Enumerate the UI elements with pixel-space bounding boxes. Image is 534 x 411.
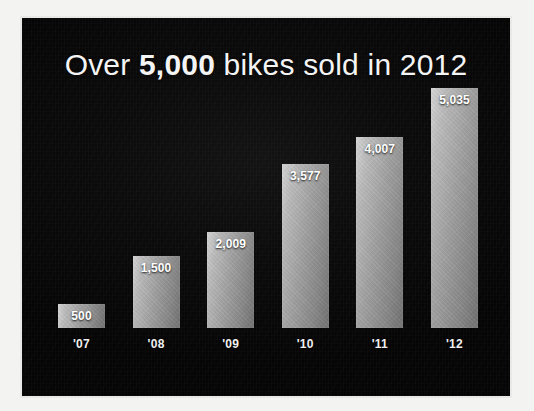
x-axis-label-08: '08: [133, 337, 180, 351]
x-axis-label-12: '12: [431, 337, 478, 351]
bar-value-12: 5,035: [431, 93, 478, 107]
bar-chart-plot-area: 500 '07 1,500 '08 2,009 ': [58, 88, 478, 380]
bar-slot-12: 5,035 '12: [431, 88, 478, 328]
presentation-slide: Over 5,000 bikes sold in 2012 500 '07 1,…: [22, 18, 510, 396]
title-emphasis: 5,000: [139, 48, 215, 81]
title-prefix: Over: [65, 48, 139, 81]
x-axis-label-11: '11: [356, 337, 403, 351]
bar-12[interactable]: 5,035: [431, 88, 478, 328]
bar-series: 500 '07 1,500 '08 2,009 ': [58, 88, 478, 328]
bar-slot-08: 1,500 '08: [133, 88, 180, 328]
bar-value-07: 500: [58, 309, 105, 323]
bar-slot-10: 3,577 '10: [282, 88, 329, 328]
x-axis-label-10: '10: [282, 337, 329, 351]
bar-10[interactable]: 3,577: [282, 164, 329, 328]
photo-canvas: Over 5,000 bikes sold in 2012 500 '07 1,…: [0, 0, 534, 411]
bar-slot-11: 4,007 '11: [356, 88, 403, 328]
bar-value-11: 4,007: [356, 142, 403, 156]
bar-value-09: 2,009: [207, 237, 254, 251]
bar-09[interactable]: 2,009: [207, 232, 254, 328]
page-title: Over 5,000 bikes sold in 2012: [22, 48, 510, 82]
x-axis-label-09: '09: [207, 337, 254, 351]
title-suffix: bikes sold in 2012: [215, 48, 467, 81]
bar-11[interactable]: 4,007: [356, 137, 403, 328]
bar-slot-09: 2,009 '09: [207, 88, 254, 328]
slide-frame: Over 5,000 bikes sold in 2012 500 '07 1,…: [20, 16, 512, 398]
bar-value-10: 3,577: [282, 169, 329, 183]
bar-07[interactable]: 500: [58, 304, 105, 328]
x-axis-label-07: '07: [58, 337, 105, 351]
bar-value-08: 1,500: [133, 261, 180, 275]
bar-slot-07: 500 '07: [58, 88, 105, 328]
bar-08[interactable]: 1,500: [133, 256, 180, 328]
